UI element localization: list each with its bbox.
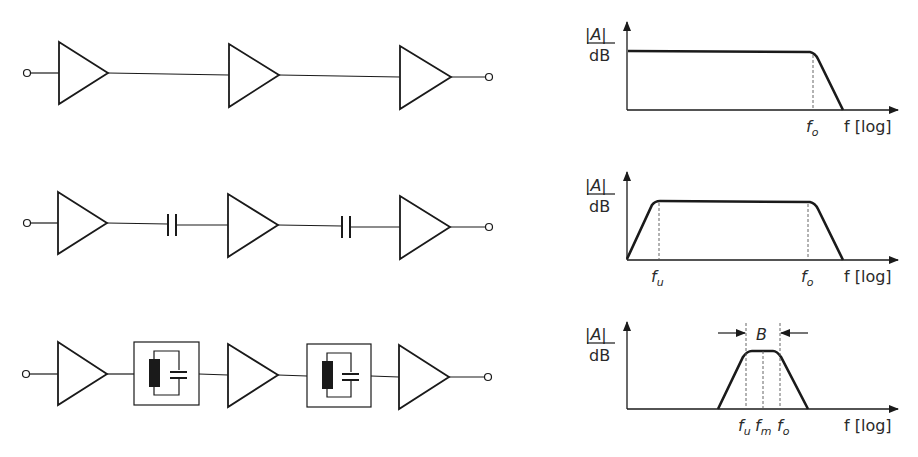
amplifier-stage-3 xyxy=(400,196,450,259)
amplifier-stage-2 xyxy=(228,194,278,257)
graph-bandpass-wide: |A| dB fu fo f [log] xyxy=(585,172,898,289)
input-terminal xyxy=(23,371,30,378)
output-terminal xyxy=(486,224,493,231)
lc-tank-filter-2 xyxy=(307,344,371,407)
output-terminal xyxy=(485,374,492,381)
marker-f-o: fo xyxy=(801,267,814,289)
response-curve xyxy=(628,51,843,110)
row-capacitor-coupled xyxy=(24,192,493,259)
row-direct-coupled xyxy=(24,42,493,109)
row-resonant-coupled xyxy=(23,342,492,409)
amplifier-stage-1 xyxy=(59,42,108,104)
response-curve xyxy=(718,351,808,409)
amplifier-stage-2 xyxy=(229,44,279,107)
y-label-den: dB xyxy=(589,197,610,216)
bandwidth-label: B xyxy=(756,325,767,344)
amplifier-coupling-diagram: |A| dB fo f [log] |A| dB fu fo f [log] |… xyxy=(0,0,918,457)
graph-lowpass: |A| dB fo f [log] xyxy=(585,22,898,139)
marker-f-u: fu xyxy=(738,416,751,438)
graph-bandpass-narrow: |A| dB B fu fm fo f [log] xyxy=(585,322,898,438)
input-terminal xyxy=(24,70,31,77)
y-label-den: dB xyxy=(589,346,610,365)
x-label: f [log] xyxy=(844,416,892,435)
y-label-num: |A| xyxy=(585,325,607,344)
input-terminal xyxy=(24,220,31,227)
amplifier-stage-3 xyxy=(400,46,451,109)
inductor-icon xyxy=(322,361,333,389)
amplifier-stage-3 xyxy=(399,345,449,409)
x-label: f [log] xyxy=(844,117,892,136)
amplifier-stage-2 xyxy=(228,344,278,407)
coupling-capacitor-1 xyxy=(168,214,176,236)
x-label: f [log] xyxy=(844,267,892,286)
amplifier-stage-1 xyxy=(58,342,107,405)
coupling-capacitor-2 xyxy=(342,216,350,238)
output-terminal xyxy=(486,74,493,81)
marker-f-m: fm xyxy=(755,416,771,438)
y-label-num: |A| xyxy=(585,25,607,44)
y-label-num: |A| xyxy=(585,176,607,195)
marker-f-u: fu xyxy=(651,267,664,289)
marker-f-o: fo xyxy=(777,416,790,438)
lc-tank-filter-1 xyxy=(134,342,199,405)
marker-f-o: fo xyxy=(806,117,819,139)
y-label-den: dB xyxy=(589,46,610,65)
inductor-icon xyxy=(149,359,160,387)
amplifier-stage-1 xyxy=(58,192,107,254)
